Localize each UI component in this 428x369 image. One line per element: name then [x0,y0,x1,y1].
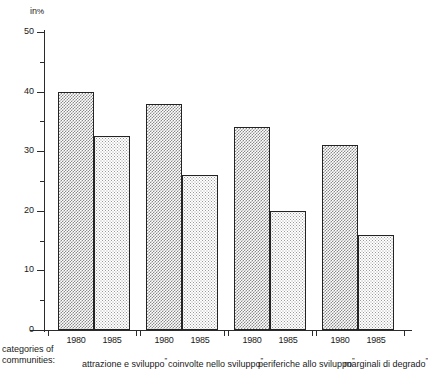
legend-item: coinvolte nello sviluppo” [168,355,263,369]
bar-1985 [94,136,130,330]
x-axis-line [30,330,412,331]
bar-1985 [182,175,218,330]
y-tick-minor [40,121,45,122]
y-tick-minor [40,62,45,63]
bar-1985 [270,211,306,330]
y-tick-major [37,270,45,271]
legend-item-label: attrazione e sviluppo [82,359,165,369]
y-tick-minor [40,300,45,301]
year-label: 1980 [58,335,94,345]
x-tick [228,330,229,336]
x-tick [224,330,225,336]
legend-item: marginali di degrado” [344,355,428,369]
bar-1985 [358,235,394,330]
year-label: 1980 [322,335,358,345]
x-tick [316,330,317,336]
y-tick-major [37,211,45,212]
percent-symbol: % [37,7,44,16]
bar-1980 [146,104,182,330]
y-tick-label: 30 [0,146,34,155]
legend-item-label: periferiche allo sviluppo [258,359,352,369]
quote-mark: ” [426,356,428,365]
x-tick [48,330,49,336]
y-tick-label: 20 [0,206,34,215]
y-axis-unit-prefix: in [30,6,37,16]
year-label: 1985 [270,335,306,345]
x-axis-caption-line1: categories of [2,344,55,355]
y-tick-major [37,32,45,33]
y-tick-major [37,330,45,331]
year-label: 1985 [94,335,130,345]
x-axis-caption-line2: communities: [2,355,55,366]
legend-item-label: marginali di degrado [344,359,426,369]
year-label: 1980 [234,335,270,345]
legend-item: periferiche allo sviluppo” [258,355,354,369]
y-tick-label: 10 [0,265,34,274]
x-axis-caption: categories of communities: [2,344,55,366]
x-tick [136,330,137,336]
y-tick-minor [40,181,45,182]
x-tick [404,330,405,336]
bar-1980 [234,127,270,330]
y-tick-minor [40,241,45,242]
x-tick [140,330,141,336]
y-tick-label: 0 [0,325,34,334]
bar-1980 [322,145,358,330]
legend-item-label: coinvolte nello sviluppo [168,359,261,369]
quote-mark: ” [165,356,167,365]
y-tick-major [37,92,45,93]
bar-1980 [58,92,94,330]
y-tick-label: 40 [0,87,34,96]
y-tick-major [37,151,45,152]
x-tick [312,330,313,336]
legend-item: attrazione e sviluppo” [82,355,167,369]
year-label: 1985 [358,335,394,345]
year-label: 1980 [146,335,182,345]
year-label: 1985 [182,335,218,345]
y-axis-unit-label: in% [30,6,44,17]
y-tick-label: 50 [0,27,34,36]
